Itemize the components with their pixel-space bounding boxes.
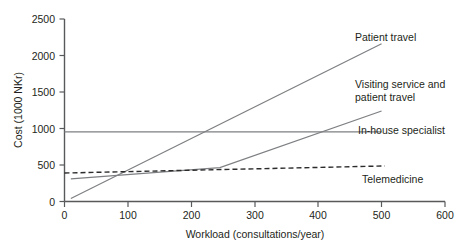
- x-tick-label-100: 100: [119, 209, 137, 221]
- x-tick-label-200: 200: [183, 209, 201, 221]
- series-label-visiting-service-line2: patient travel: [355, 91, 415, 103]
- series-line-telemedicine: [65, 166, 385, 173]
- y-axis-title: Cost (1000 NKr): [12, 72, 24, 148]
- x-axis-title: Workload (consultations/year): [186, 228, 325, 240]
- series-label-telemedicine: Telemedicine: [362, 173, 423, 185]
- y-tick-label-500: 500: [37, 159, 55, 171]
- x-tick-label-500: 500: [373, 209, 391, 221]
- x-tick-label-0: 0: [62, 209, 68, 221]
- series-label-patient-travel: Patient travel: [355, 31, 416, 43]
- series-label-in-house-specialist: In-house specialist: [358, 124, 445, 136]
- y-tick-label-0: 0: [49, 196, 55, 208]
- y-axis-ticks: [60, 19, 65, 202]
- x-tick-label-600: 600: [436, 209, 454, 221]
- y-tick-label-2500: 2500: [32, 13, 56, 25]
- line-chart: 2500 2000 1500 1000 500 0 0 100 200 300 …: [0, 0, 466, 248]
- series-label-visiting-service-line1: Visiting service and: [355, 78, 445, 90]
- x-axis-ticks: [65, 202, 446, 208]
- y-tick-label-1500: 1500: [32, 86, 56, 98]
- chart-figure: 2500 2000 1500 1000 500 0 0 100 200 300 …: [0, 0, 466, 248]
- y-tick-label-1000: 1000: [32, 123, 56, 135]
- x-tick-label-300: 300: [246, 209, 264, 221]
- x-tick-label-400: 400: [309, 209, 327, 221]
- y-tick-label-2000: 2000: [32, 50, 56, 62]
